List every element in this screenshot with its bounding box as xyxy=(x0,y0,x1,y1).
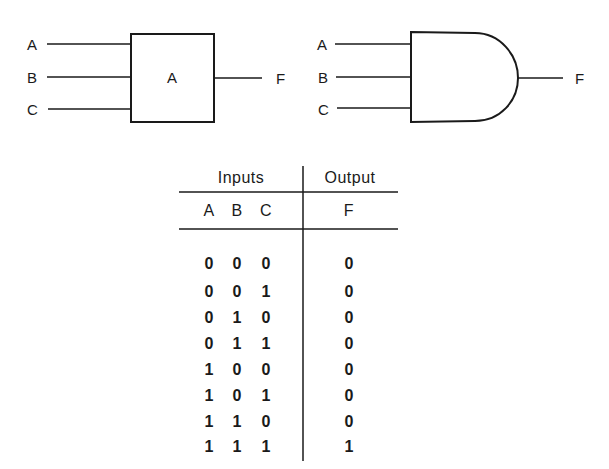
table-row: 0 1 0 0 xyxy=(205,309,354,326)
table-row: 1 1 1 1 xyxy=(205,438,354,455)
cell-b: 0 xyxy=(233,283,242,300)
cell-a: 1 xyxy=(205,387,214,404)
block-gate-input-b-label: B xyxy=(27,69,37,86)
cell-a: 1 xyxy=(205,413,214,430)
block-gate-output-label: F xyxy=(276,70,285,87)
cell-f: 1 xyxy=(345,438,354,455)
block-gate-input-a-label: A xyxy=(27,36,37,53)
block-gate-label: A xyxy=(167,69,177,86)
table-row: 0 1 1 0 xyxy=(205,335,354,352)
and-gate-output-label: F xyxy=(575,70,584,87)
cell-b: 0 xyxy=(233,387,242,404)
cell-a: 0 xyxy=(205,335,214,352)
block-gate-input-c-label: C xyxy=(27,101,38,118)
logic-diagram: A B C A F A B C F Inputs Output A B C F xyxy=(0,0,609,469)
column-header-b: B xyxy=(231,202,242,219)
and-gate-input-b-label: B xyxy=(318,69,328,86)
and-gate: A B C F xyxy=(317,32,584,122)
cell-b: 1 xyxy=(233,438,242,455)
and-gate-input-a-label: A xyxy=(317,36,327,53)
cell-f: 0 xyxy=(345,255,354,272)
table-row: 0 0 0 0 xyxy=(205,255,354,272)
cell-a: 0 xyxy=(205,283,214,300)
cell-f: 0 xyxy=(345,335,354,352)
cell-a: 1 xyxy=(205,361,214,378)
inputs-group-header: Inputs xyxy=(218,169,265,186)
table-row: 0 0 1 0 xyxy=(205,283,354,300)
cell-a: 0 xyxy=(205,309,214,326)
cell-c: 1 xyxy=(262,283,271,300)
table-row: 1 0 0 0 xyxy=(205,361,354,378)
cell-c: 0 xyxy=(262,361,271,378)
block-gate: A B C A F xyxy=(27,34,285,122)
cell-f: 0 xyxy=(345,283,354,300)
column-header-f: F xyxy=(344,202,354,219)
cell-c: 1 xyxy=(262,387,271,404)
cell-f: 0 xyxy=(345,413,354,430)
cell-f: 0 xyxy=(345,309,354,326)
column-header-c: C xyxy=(260,202,272,219)
cell-f: 0 xyxy=(345,361,354,378)
table-row: 1 0 1 0 xyxy=(205,387,354,404)
cell-b: 0 xyxy=(233,361,242,378)
cell-a: 0 xyxy=(205,255,214,272)
cell-c: 0 xyxy=(262,255,271,272)
and-gate-input-c-label: C xyxy=(318,101,329,118)
cell-c: 0 xyxy=(262,413,271,430)
cell-c: 1 xyxy=(262,335,271,352)
and-gate-body xyxy=(411,32,518,122)
cell-b: 0 xyxy=(233,255,242,272)
truth-table: Inputs Output A B C F 0 0 0 0 0 0 1 0 0 … xyxy=(179,166,398,461)
cell-b: 1 xyxy=(233,335,242,352)
column-header-a: A xyxy=(203,202,214,219)
output-group-header: Output xyxy=(324,169,375,186)
cell-b: 1 xyxy=(233,413,242,430)
cell-c: 1 xyxy=(262,438,271,455)
cell-c: 0 xyxy=(262,309,271,326)
cell-f: 0 xyxy=(345,387,354,404)
cell-b: 1 xyxy=(233,309,242,326)
cell-a: 1 xyxy=(205,438,214,455)
table-row: 1 1 0 0 xyxy=(205,413,354,430)
